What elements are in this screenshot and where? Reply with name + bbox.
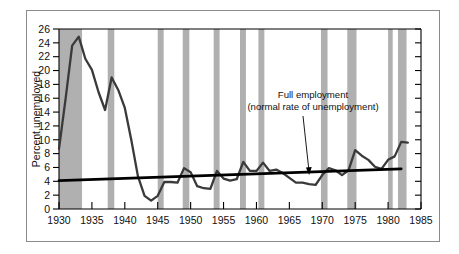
x-tick-label-1935: 1935 xyxy=(80,214,104,226)
x-tick-label-1975: 1975 xyxy=(344,214,368,226)
recession-band-3 xyxy=(183,29,190,209)
x-tick-label-1960: 1960 xyxy=(245,214,269,226)
y-tick-label-8: 8 xyxy=(44,147,50,159)
annotation-line-2: (normal rate of unemployment) xyxy=(247,101,378,112)
x-tick-label-1940: 1940 xyxy=(113,214,137,226)
recession-band-9 xyxy=(388,29,393,209)
x-tick-label-1965: 1965 xyxy=(278,214,302,226)
x-tick-label-1955: 1955 xyxy=(212,214,236,226)
recession-band-4 xyxy=(214,29,220,209)
y-axis-title: Percent unemployed xyxy=(30,71,42,167)
recession-band-1 xyxy=(108,29,115,209)
x-tick-label-1970: 1970 xyxy=(311,214,335,226)
y-tick-label-24: 24 xyxy=(38,37,50,49)
recession-band-10 xyxy=(398,29,407,209)
figure-container: 0246810121416182022242619301935194019451… xyxy=(0,0,459,254)
x-tick-label-1950: 1950 xyxy=(179,214,203,226)
y-tick-label-26: 26 xyxy=(38,23,50,35)
recession-band-5 xyxy=(240,29,246,209)
recession-band-2 xyxy=(158,29,164,209)
x-tick-label-1980: 1980 xyxy=(376,214,400,226)
recession-band-8 xyxy=(347,29,356,209)
x-tick-label-1945: 1945 xyxy=(146,214,170,226)
y-tick-label-22: 22 xyxy=(38,50,50,62)
x-tick-label-1930: 1930 xyxy=(47,214,71,226)
recession-band-6 xyxy=(258,29,264,209)
y-tick-label-0: 0 xyxy=(44,203,50,215)
y-tick-label-6: 6 xyxy=(44,161,50,173)
unemployment-chart: 0246810121416182022242619301935194019451… xyxy=(0,0,459,254)
x-tick-label-1985: 1985 xyxy=(409,214,433,226)
y-tick-label-2: 2 xyxy=(44,189,50,201)
y-tick-label-4: 4 xyxy=(44,175,50,187)
annotation-line-1: Full employment xyxy=(278,89,349,100)
recession-band-7 xyxy=(321,29,328,209)
